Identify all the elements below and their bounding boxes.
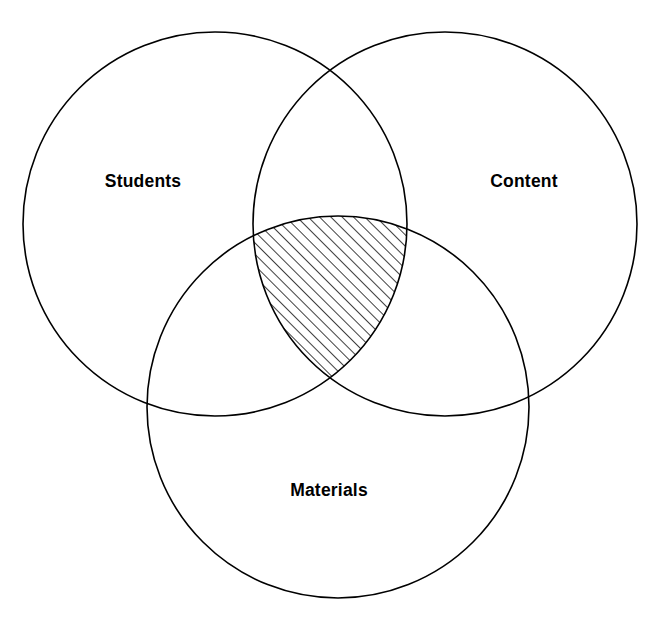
label-students: Students [105,171,182,191]
label-materials: Materials [290,480,368,500]
venn-canvas: Students Content Materials [0,0,670,629]
venn-diagram: Students Content Materials [0,0,670,629]
label-content: Content [490,171,558,191]
